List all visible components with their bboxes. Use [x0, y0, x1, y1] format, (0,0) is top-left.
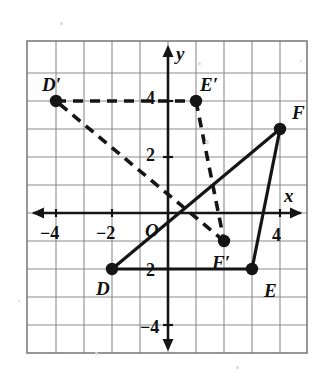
vertex-label: F [292, 103, 305, 122]
scan-speck [18, 300, 20, 302]
y-tick-label: 4 [146, 89, 155, 107]
y-tick-label: 2 [146, 261, 155, 279]
y-tick-label: −4 [140, 318, 159, 336]
x-tick-label: −4 [40, 224, 59, 242]
x-tick-label: −2 [96, 224, 115, 242]
scan-speck [236, 366, 239, 369]
scan-speck [205, 140, 209, 144]
coordinate-plane-figure [0, 0, 326, 382]
vertex-dot [246, 263, 258, 275]
vertex-dot [106, 263, 118, 275]
vertex-dot [274, 123, 286, 135]
vertex-dot [218, 235, 230, 247]
scan-speck [95, 352, 98, 355]
scan-speck [198, 62, 201, 65]
vertex-label: D′ [42, 75, 61, 94]
x-tick-label: 4 [272, 226, 281, 244]
vertex-label: E′ [200, 75, 218, 94]
y-tick-label: 2 [146, 146, 155, 164]
vertex-label: F′ [212, 253, 230, 272]
scan-speck [60, 22, 63, 25]
vertex-label: D [96, 279, 110, 298]
origin-label: O [145, 221, 159, 240]
scan-speck [300, 60, 302, 62]
y-axis-name: y [176, 44, 184, 63]
vertex-dot [50, 95, 62, 107]
vertex-label: E [264, 281, 277, 300]
x-axis-name: x [284, 186, 294, 205]
vertex-dot [190, 95, 202, 107]
